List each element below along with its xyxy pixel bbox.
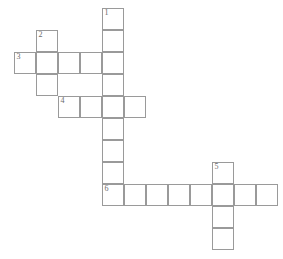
crossword-cell[interactable] [146,184,168,206]
crossword-cell[interactable] [124,96,146,118]
crossword-cell[interactable] [102,30,124,52]
crossword-cell[interactable] [212,206,234,228]
crossword-cell[interactable]: 1 [102,8,124,30]
crossword-cell[interactable] [190,184,212,206]
crossword-cell[interactable] [124,184,146,206]
crossword-cell[interactable]: 6 [102,184,124,206]
crossword-cell[interactable] [102,118,124,140]
crossword-cell[interactable] [102,52,124,74]
cell-number-1: 1 [105,8,109,17]
crossword-cell[interactable] [80,96,102,118]
crossword-cell[interactable] [36,52,58,74]
cell-number-3: 3 [17,52,21,61]
crossword-cell[interactable] [234,184,256,206]
crossword-cell[interactable] [102,162,124,184]
crossword-grid[interactable]: 123456 [0,0,283,259]
crossword-cell[interactable] [36,74,58,96]
crossword-puzzle-page: 123456 [0,0,283,259]
cell-number-5: 5 [215,162,219,171]
cell-number-2: 2 [39,30,43,39]
crossword-cell[interactable]: 3 [14,52,36,74]
crossword-cell[interactable] [212,228,234,250]
crossword-cell[interactable]: 5 [212,162,234,184]
crossword-cell[interactable] [256,184,278,206]
crossword-cell[interactable] [168,184,190,206]
cell-number-4: 4 [61,96,65,105]
cell-number-6: 6 [105,184,109,193]
crossword-cell[interactable]: 4 [58,96,80,118]
crossword-cell[interactable] [212,184,234,206]
crossword-cell[interactable] [102,140,124,162]
crossword-cell[interactable]: 2 [36,30,58,52]
crossword-cell[interactable] [58,52,80,74]
crossword-cell[interactable] [102,96,124,118]
crossword-cell[interactable] [80,52,102,74]
crossword-cell[interactable] [102,74,124,96]
